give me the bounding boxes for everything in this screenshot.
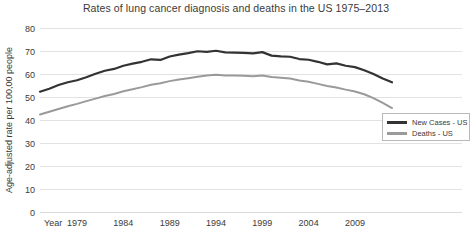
x-tick-label: 1979	[67, 218, 87, 228]
line-chart: Rates of lung cancer diagnosis and death…	[0, 0, 472, 240]
x-tick-label: 2009	[345, 218, 365, 228]
y-tick-label: 0	[30, 208, 35, 218]
legend-item-deaths: Deaths - US	[387, 128, 465, 139]
x-tick-label: 1989	[160, 218, 180, 228]
y-tick-label: 10	[25, 185, 35, 195]
y-tick-label: 40	[25, 116, 35, 126]
y-tick-label: 30	[25, 139, 35, 149]
x-axis-title: Year	[44, 218, 62, 228]
x-tick-label: 1999	[252, 218, 272, 228]
y-tick-label: 50	[25, 93, 35, 103]
legend-swatch-deaths	[387, 132, 407, 135]
x-tick-label: 2004	[299, 218, 319, 228]
x-tick-label: 1984	[113, 218, 133, 228]
y-tick-label: 60	[25, 70, 35, 80]
legend-label-new-cases: New Cases - US	[412, 117, 467, 128]
series-line-new-cases	[40, 51, 392, 92]
y-tick-label: 20	[25, 162, 35, 172]
legend-label-deaths: Deaths - US	[412, 128, 453, 139]
x-tick-label: 1994	[206, 218, 226, 228]
y-tick-label: 80	[25, 24, 35, 34]
legend-item-new-cases: New Cases - US	[387, 117, 465, 128]
y-tick-label: 70	[25, 47, 35, 57]
chart-legend: New Cases - US Deaths - US	[382, 113, 470, 141]
series-line-deaths	[40, 75, 392, 115]
legend-swatch-new-cases	[387, 121, 407, 124]
